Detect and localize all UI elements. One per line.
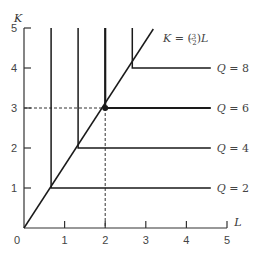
expansion-path (24, 29, 153, 228)
expansion-path-label: K = (32)L (162, 32, 208, 47)
isoquant-label: Q = 2 (217, 182, 249, 195)
isoquant-label: Q = 8 (217, 62, 249, 75)
isoquant-label: Q = 6 (217, 102, 249, 115)
x-tick-label: 2 (102, 234, 108, 246)
labels: Q = 2Q = 4Q = 6Q = 8K = (32)L (162, 32, 249, 195)
x-tick-label: 4 (183, 234, 189, 246)
y-tick-label: 4 (11, 62, 17, 74)
expansion-path-line (24, 29, 153, 228)
optimal-point (102, 105, 108, 111)
x-tick-label: 5 (224, 234, 230, 246)
axes: 12345012345KL (11, 12, 242, 246)
y-axis-label: K (13, 12, 23, 25)
y-tick-label: 1 (11, 182, 17, 194)
isoquant-chart: 12345012345KL Q = 2Q = 4Q = 6Q = 8K = (3… (0, 0, 255, 263)
x-axis-label: L (233, 216, 241, 229)
x-tick-label: 1 (62, 234, 68, 246)
x-tick-label: 3 (143, 234, 149, 246)
y-tick-label: 3 (11, 102, 17, 114)
x-tick-label: 0 (14, 234, 20, 246)
isoquant-q4 (78, 28, 211, 148)
isoquant-label: Q = 4 (217, 142, 249, 155)
y-tick-label: 2 (11, 142, 17, 154)
